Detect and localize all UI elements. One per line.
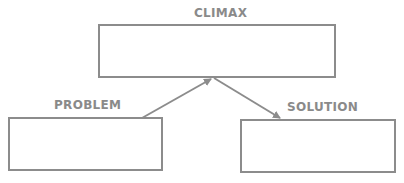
climax-to-solution-arrow [214,78,280,118]
connector-arrows [0,0,404,183]
problem-to-climax-arrow [142,79,211,118]
